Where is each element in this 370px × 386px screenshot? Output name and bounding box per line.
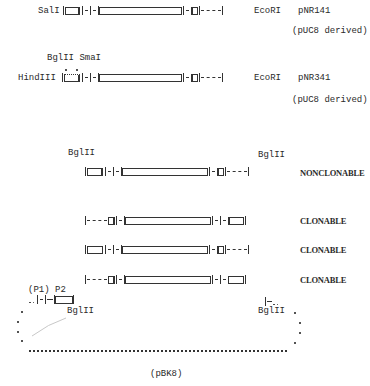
vector-name: (pBK8): [150, 369, 182, 379]
plasmid-backbone-dot: [294, 342, 296, 344]
site-bglii-left: BglII: [68, 148, 95, 158]
origin-note: (pUC8 derived): [292, 95, 368, 105]
plasmid-backbone-dot: [299, 332, 301, 334]
fragment-row-reverse: [85, 274, 246, 285]
site-bglii-right: BglII: [258, 306, 285, 316]
plasmid-backbone-dot: [21, 311, 23, 313]
site-hindiii: HindIII: [18, 73, 56, 83]
site-ecori: EcoRI: [254, 73, 281, 83]
site-sali: SalI: [38, 6, 60, 16]
status-clonable: CLONABLE: [300, 245, 346, 255]
plasmid-backbone-dot: [21, 340, 23, 342]
status-clonable: CLONABLE: [300, 216, 346, 226]
fragment-row-reverse: [85, 215, 246, 226]
smai-marker: [76, 69, 78, 71]
plasmid-backbone-dot: [299, 322, 301, 324]
vector-left-arm: [29, 294, 74, 305]
plasmid-backbone-dot: [17, 331, 19, 333]
construct-name-pnr341: pNR341: [298, 73, 330, 83]
status-nonclonable: NONCLONABLE: [300, 168, 364, 178]
pencil-mark: [30, 316, 70, 338]
site-bglii-right: BglII: [258, 150, 285, 160]
status-clonable: CLONABLE: [300, 275, 346, 285]
plasmid-backbone-line: [28, 350, 288, 352]
site-ecori: EcoRI: [254, 6, 281, 16]
construct-pnr341-map: [62, 72, 223, 83]
plasmid-backbone-dot: [17, 321, 19, 323]
construct-pnr141-map: [63, 5, 223, 16]
fragment-row-forward: [85, 244, 249, 255]
origin-note: (pUC8 derived): [292, 26, 368, 36]
plasmid-backbone-dot: [294, 312, 296, 314]
sites-bglii-smai: BglII SmaI: [47, 53, 101, 63]
site-bglii-left: BglII: [67, 306, 94, 316]
bglii-marker: [65, 69, 67, 71]
fragment-row-forward: [85, 166, 249, 177]
construct-name-pnr141: pNR141: [298, 6, 330, 16]
